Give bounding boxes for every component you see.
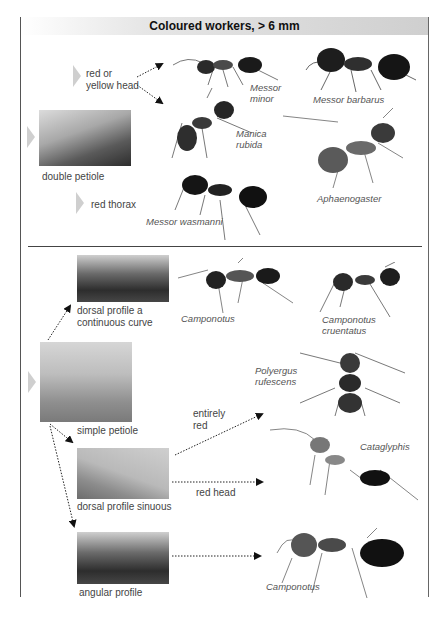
branch-label-red-yellow-head: red or yellow head	[86, 68, 139, 92]
label-line: dorsal profile a	[77, 305, 153, 317]
label-line: Camponotus	[322, 314, 376, 325]
species-label-messor-wasmanni: Messor wasmanni	[146, 216, 223, 227]
sub-branch-label-red-head: red head	[196, 487, 235, 499]
angular-profile-photo	[77, 532, 169, 584]
label-line: cruentatus	[322, 325, 376, 336]
double-petiole-photo	[39, 110, 131, 166]
chevron-icon	[27, 126, 35, 148]
species-label-messor-barbarus: Messor barbarus	[313, 94, 384, 105]
ant-image-manica-rubida	[162, 88, 262, 163]
species-label-camponotus-1: Camponotus	[181, 313, 235, 324]
branch-label-continuous-curve: dorsal profile a continuous curve	[77, 305, 153, 329]
label-line: yellow head	[86, 80, 139, 92]
label-line: red	[193, 420, 225, 432]
label-line: red or	[86, 68, 139, 80]
simple-petiole-photo	[40, 342, 132, 422]
ant-image-cataglyphis	[270, 425, 420, 510]
species-label-polyergus-rufescens: Polyergus rufescens	[255, 365, 297, 387]
sub-branch-label-entirely-red: entirely red	[193, 408, 225, 432]
chevron-icon	[28, 371, 36, 393]
ant-image-camponotus	[178, 258, 303, 313]
species-label-cataglyphis: Cataglyphis	[360, 441, 410, 452]
species-label-manica-rubida: Manica rubida	[236, 128, 267, 150]
branch-label-angular: angular profile	[79, 587, 142, 599]
ant-image-aphaenogaster	[283, 108, 408, 193]
sinuous-profile-photo	[77, 448, 169, 499]
label-line: Polyergus	[255, 365, 297, 376]
continuous-curve-photo	[77, 255, 169, 302]
ant-image-messor-wasmanni	[165, 165, 275, 240]
species-label-aphaenogaster: Aphaenogaster	[317, 193, 381, 204]
label-line: entirely	[193, 408, 225, 420]
label-line: rubida	[236, 139, 267, 150]
chevron-icon	[73, 65, 81, 87]
ant-image-polyergus-rufescens	[295, 348, 410, 418]
key-label-simple-petiole: simple petiole	[77, 425, 138, 437]
key-label-double-petiole: double petiole	[42, 171, 104, 183]
chevron-icon	[76, 192, 84, 214]
branch-label-sinuous: dorsal profile sinuous	[77, 501, 172, 513]
branch-label-red-thorax: red thorax	[91, 199, 136, 211]
species-label-camponotus-cruentatus: Camponotus cruentatus	[322, 314, 376, 336]
ant-image-messor-barbarus	[296, 40, 421, 95]
label-line: continuous curve	[77, 317, 153, 329]
label-line: Manica	[236, 128, 267, 139]
label-line: rufescens	[255, 376, 297, 387]
section-divider	[28, 246, 422, 247]
ant-image-camponotus-cruentatus	[315, 262, 420, 322]
species-label-camponotus-2: Camponotus	[266, 581, 320, 592]
